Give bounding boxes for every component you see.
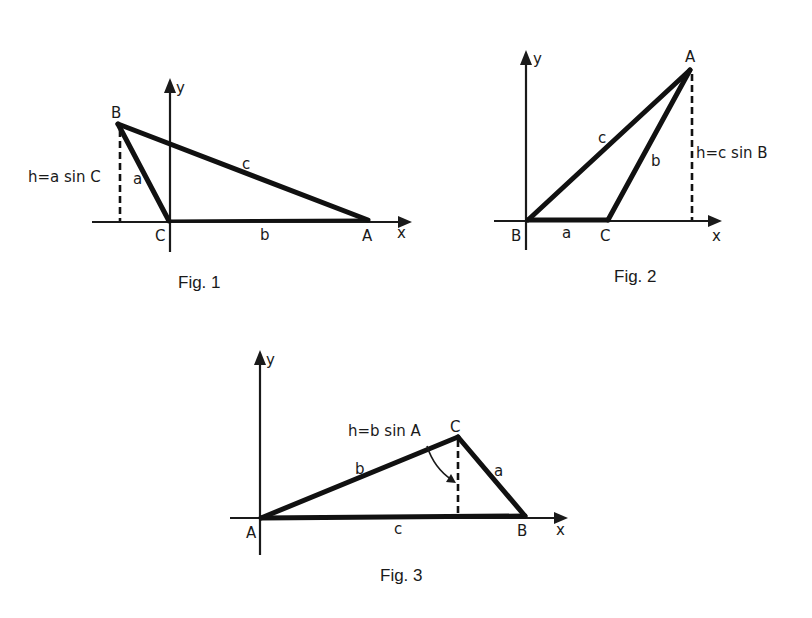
fig3-vertex-B: B xyxy=(517,522,527,540)
fig3-x-label: x xyxy=(556,521,565,539)
fig2-side-a-label: a xyxy=(562,224,571,242)
fig3-side-c xyxy=(261,516,525,518)
fig1-side-c-label: c xyxy=(242,155,250,173)
figure-2: y x A B C a b c h=c sin B Fig. 2 xyxy=(494,48,768,286)
fig1-vertex-C: C xyxy=(155,227,165,245)
fig2-height-formula: h=c sin B xyxy=(696,144,768,162)
fig1-vertex-B: B xyxy=(111,104,121,122)
fig2-side-b xyxy=(608,70,690,220)
fig2-caption: Fig. 2 xyxy=(614,267,657,286)
fig3-pointer-arrow xyxy=(427,446,452,480)
fig2-side-c-label: c xyxy=(598,129,606,147)
fig2-vertex-B: B xyxy=(511,227,521,245)
fig3-pointer-arrowhead-icon xyxy=(446,474,456,483)
fig1-y-label: y xyxy=(176,79,185,97)
fig2-y-label: y xyxy=(533,50,542,68)
fig3-y-axis-arrow-icon xyxy=(254,350,266,365)
fig1-x-label: x xyxy=(397,224,406,242)
fig3-height-formula: h=b sin A xyxy=(348,422,422,440)
figure-3: y x A B C a b c h=b sin A Fig. 3 xyxy=(230,350,568,585)
triangle-figures-canvas: y x B C A a b c h=a sin C Fig. 1 y x A B… xyxy=(0,0,812,618)
fig3-side-a xyxy=(458,437,525,516)
fig1-side-a-label: a xyxy=(133,170,142,188)
fig3-side-c-label: c xyxy=(394,520,402,538)
fig2-vertex-C: C xyxy=(600,227,610,245)
fig3-caption: Fig. 3 xyxy=(380,566,423,585)
fig3-vertex-A: A xyxy=(246,524,257,542)
fig1-caption: Fig. 1 xyxy=(178,273,221,292)
figure-1: y x B C A a b c h=a sin C Fig. 1 xyxy=(28,78,412,292)
fig2-side-b-label: b xyxy=(651,152,661,170)
fig2-x-label: x xyxy=(712,227,721,245)
fig3-vertex-C: C xyxy=(450,418,460,436)
fig2-vertex-A: A xyxy=(685,48,696,66)
fig1-vertex-A: A xyxy=(362,227,373,245)
fig2-side-c xyxy=(528,70,690,220)
fig1-y-axis-arrow-icon xyxy=(164,78,176,93)
fig1-side-b xyxy=(169,220,368,221)
fig1-side-b-label: b xyxy=(260,226,270,244)
fig2-y-axis-arrow-icon xyxy=(520,50,532,65)
fig3-side-a-label: a xyxy=(494,462,503,480)
fig2-x-axis-arrow-icon xyxy=(708,215,722,227)
fig3-side-b-label: b xyxy=(355,460,365,478)
fig1-height-formula: h=a sin C xyxy=(28,168,101,186)
fig3-y-label: y xyxy=(266,351,275,369)
